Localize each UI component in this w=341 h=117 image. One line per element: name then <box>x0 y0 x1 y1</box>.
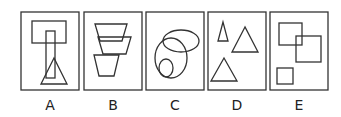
option-b-label: B <box>103 97 123 113</box>
option-b-panel[interactable] <box>84 12 142 90</box>
option-a-label: A <box>40 97 60 113</box>
medium-triangle-bottom <box>211 58 237 81</box>
wide-rectangle <box>32 21 66 43</box>
trapezoid-middle <box>98 37 131 54</box>
option-e-panel[interactable] <box>270 12 328 90</box>
option-d-panel[interactable] <box>208 12 266 90</box>
square-overlapping <box>296 36 321 62</box>
trapezoid-top <box>95 24 127 41</box>
option-c-panel[interactable] <box>146 12 204 90</box>
square-top-left <box>279 23 302 45</box>
medium-triangle-right <box>232 27 258 52</box>
triangle <box>41 58 67 84</box>
option-e-label: E <box>289 97 309 113</box>
small-square <box>277 68 293 84</box>
horizontal-ellipse <box>163 30 199 52</box>
option-a-panel[interactable] <box>21 12 79 90</box>
small-ellipse <box>159 59 173 77</box>
trapezoid-bottom <box>94 55 119 76</box>
small-triangle <box>218 22 228 41</box>
option-c-label: C <box>165 97 185 113</box>
option-d-label: D <box>227 97 247 113</box>
